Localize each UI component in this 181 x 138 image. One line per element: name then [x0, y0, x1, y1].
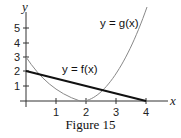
f-line-label: y = f(x) [62, 63, 98, 75]
y-tick-label-5: 5 [14, 22, 20, 34]
y-tick-label-4: 4 [14, 37, 20, 49]
y-tick-label-1: 1 [14, 80, 20, 92]
x-axis-label: x [169, 93, 176, 108]
y-tick-label-2: 2 [14, 65, 20, 77]
y-tick-label-3: 3 [14, 51, 20, 63]
y-axis-label: y [20, 0, 28, 14]
figure-caption: Figure 15 [0, 117, 181, 133]
f-line [26, 71, 146, 101]
g-curve-label: y = g(x) [100, 17, 139, 29]
